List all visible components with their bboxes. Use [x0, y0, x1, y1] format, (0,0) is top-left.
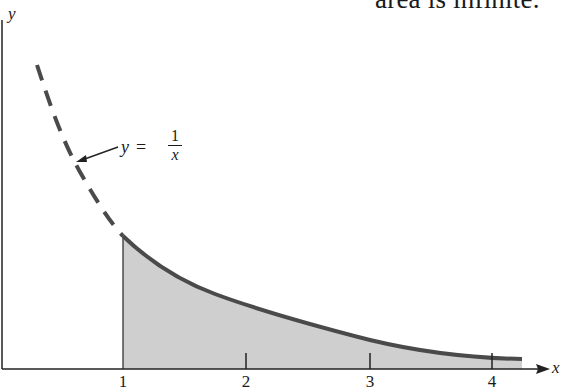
annotation-arrow-line [82, 147, 118, 160]
tick-label-1: 1 [119, 372, 128, 391]
x-axis-arrowhead [536, 364, 550, 374]
tick-label-2: 2 [242, 372, 251, 391]
fraction-denominator: x [168, 147, 182, 163]
equation-lhs: y [121, 137, 129, 157]
tick-label-4: 4 [488, 372, 497, 391]
y-axis-label: y [8, 4, 16, 24]
tick-label-3: 3 [366, 372, 375, 391]
caption-text: area is infinite. [375, 0, 540, 15]
equation-label: y= [121, 137, 155, 158]
fraction: 1 x [168, 128, 182, 163]
annotation-arrowhead [76, 155, 87, 162]
x-axis-label: x [552, 358, 560, 378]
equals-sign: = [136, 137, 146, 157]
shaded-area [123, 236, 522, 369]
fraction-numerator: 1 [168, 128, 182, 144]
